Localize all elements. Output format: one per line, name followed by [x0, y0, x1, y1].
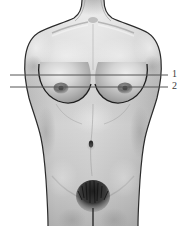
torso-illustration — [0, 0, 186, 226]
nipple-left — [58, 86, 63, 90]
suprasternal-notch — [88, 17, 98, 23]
hip-highlight-right — [108, 158, 140, 198]
nipple-right — [122, 86, 127, 90]
navel-shadow — [87, 142, 96, 151]
pubic-hair — [76, 180, 110, 212]
reference-line-label-1: 1 — [172, 69, 177, 79]
torso-body — [0, 0, 186, 226]
anatomical-figure: 1 2 — [0, 0, 186, 226]
reference-line-label-2: 2 — [172, 81, 177, 91]
hip-highlight-left — [46, 158, 78, 198]
